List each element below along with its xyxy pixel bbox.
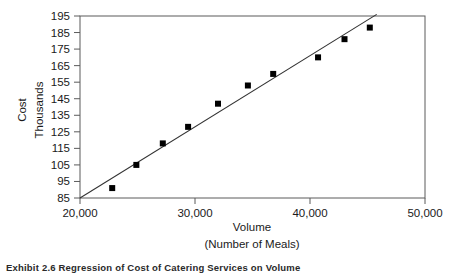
data-point-marker <box>245 82 251 88</box>
x-axis-title-meals: (Number of Meals) <box>204 238 299 250</box>
data-point-marker <box>215 101 221 107</box>
y-tick-label: 195 <box>51 10 70 22</box>
data-point-marker <box>133 162 139 168</box>
x-tick-label: 40,000 <box>292 207 327 219</box>
y-tick-label: 125 <box>51 126 70 138</box>
data-point-marker <box>315 54 321 60</box>
scatter-plot: 8595105115125135145155165175185195 20,00… <box>0 0 458 273</box>
data-point-marker <box>109 185 115 191</box>
data-point-marker <box>367 25 373 31</box>
x-tick-label: 30,000 <box>177 207 212 219</box>
plot-area-border <box>80 16 425 198</box>
y-tick-label: 135 <box>51 109 70 121</box>
y-tick-label: 105 <box>51 159 70 171</box>
figure-caption: Exhibit 2.6 Regression of Cost of Cateri… <box>6 262 300 273</box>
y-tick-label: 145 <box>51 93 70 105</box>
figure-container: 8595105115125135145155165175185195 20,00… <box>0 0 458 273</box>
x-axis-title-volume: Volume <box>233 221 271 233</box>
y-axis-title-thousands: Thousands <box>33 81 45 138</box>
data-point-marker <box>270 71 276 77</box>
data-point-marker <box>342 36 348 42</box>
y-tick-label: 175 <box>51 43 70 55</box>
x-axis-ticks: 20,00030,00040,00050,000 <box>62 198 442 219</box>
y-tick-label: 95 <box>57 175 70 187</box>
x-tick-label: 20,000 <box>62 207 97 219</box>
y-tick-label: 185 <box>51 27 70 39</box>
y-tick-label: 115 <box>52 142 70 154</box>
y-tick-label: 155 <box>51 76 70 88</box>
x-tick-label: 50,000 <box>407 207 442 219</box>
data-point-marker <box>185 124 191 130</box>
y-axis-ticks: 8595105115125135145155165175185195 <box>51 10 80 204</box>
y-tick-label: 165 <box>51 60 70 72</box>
plot-frame <box>80 16 425 198</box>
y-axis-title-cost: Cost <box>16 97 28 121</box>
data-point-marker <box>160 140 166 146</box>
y-tick-label: 85 <box>57 192 70 204</box>
